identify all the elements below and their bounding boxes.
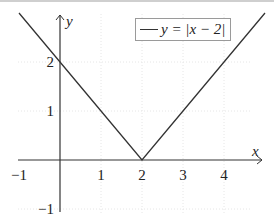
x-axis-label: x (251, 143, 259, 159)
legend: y = |x − 2| (135, 18, 231, 41)
x-tick-label: 2 (138, 167, 146, 183)
x-tick-label: 1 (97, 167, 105, 183)
tick-labels: −11234−112 (11, 54, 228, 217)
y-axis-label: y (64, 13, 73, 29)
legend-line-swatch (140, 29, 158, 30)
x-tick-label: 4 (220, 167, 228, 183)
x-tick-label: −1 (11, 167, 27, 183)
y-tick-label: 2 (47, 54, 55, 70)
x-tick-label: 3 (179, 167, 187, 183)
y-tick-label: −1 (38, 201, 54, 217)
legend-label: y = |x − 2| (161, 21, 225, 38)
y-tick-label: 1 (47, 103, 55, 119)
